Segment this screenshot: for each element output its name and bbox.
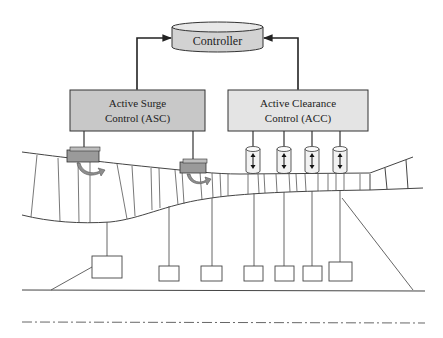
acc-label-line1: Active Clearance (260, 97, 336, 109)
sensor-box-7 (329, 262, 352, 281)
surge-actuator-1 (67, 147, 105, 176)
clearance-actuator-2 (277, 147, 291, 174)
clearance-actuator-4 (333, 147, 347, 174)
surge-actuator-2 (180, 159, 211, 185)
base-line (22, 290, 425, 291)
sensor-box-1 (92, 256, 122, 278)
sensor-box-6 (303, 266, 322, 281)
acc-label-line2: Control (ACC) (265, 112, 332, 125)
sensor-box-2 (159, 266, 179, 281)
curved-arrow-icon (77, 163, 105, 176)
engine-control-diagram: Controller Active Surge Control (ASC) Ac… (0, 0, 443, 338)
sensor-box-4 (244, 266, 263, 281)
acc-box: Active Clearance Control (ACC) (228, 90, 368, 131)
sensor-box-3 (201, 266, 222, 281)
clearance-actuators (246, 147, 347, 174)
asc-label-line2: Control (ASC) (105, 112, 170, 125)
asc-box: Active Surge Control (ASC) (70, 90, 205, 131)
sensor-box-5 (275, 266, 294, 281)
asc-label-line1: Active Surge (109, 97, 167, 109)
clearance-actuator-1 (246, 147, 260, 174)
asc-links (84, 131, 193, 162)
sensor-boxes (92, 256, 352, 281)
engine-outline (22, 152, 423, 223)
engine-centerline (22, 322, 425, 323)
controller-node: Controller (172, 22, 263, 52)
acc-links (253, 131, 340, 146)
controller-label: Controller (193, 34, 242, 48)
curved-arrow-icon (187, 174, 211, 185)
clearance-actuator-3 (305, 147, 319, 174)
